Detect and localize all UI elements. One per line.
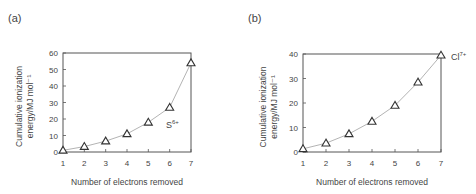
x-tick-label: 7 <box>439 159 444 168</box>
y-tick-label: 40 <box>49 82 58 91</box>
y-tick-label: 10 <box>289 124 298 133</box>
x-tick-label: 5 <box>393 159 398 168</box>
x-tick-label: 5 <box>146 159 151 168</box>
y-tick-label: 40 <box>289 50 298 59</box>
x-tick-label: 1 <box>61 159 66 168</box>
x-tick-label: 4 <box>370 159 375 168</box>
triangle-marker <box>437 51 445 58</box>
y-tick-label: 60 <box>49 49 58 58</box>
plot-frame <box>303 54 441 152</box>
triangle-marker <box>345 130 353 137</box>
svg-text:energy/MJ mol⁻¹: energy/MJ mol⁻¹ <box>25 75 35 139</box>
svg-text:energy/MJ mol⁻¹: energy/MJ mol⁻¹ <box>269 75 279 139</box>
x-tick-label: 3 <box>103 159 108 168</box>
y-tick-label: 20 <box>49 115 58 124</box>
triangle-marker <box>368 117 376 124</box>
x-tick-label: 2 <box>324 159 329 168</box>
svg-text:Cumulative ionization: Cumulative ionization <box>14 66 24 147</box>
x-tick-label: 7 <box>189 159 194 168</box>
triangle-marker <box>123 130 131 137</box>
y-tick-label: 50 <box>49 66 58 75</box>
x-tick-label: 6 <box>167 159 172 168</box>
x-tick-label: 4 <box>125 159 130 168</box>
y-tick-label: 0 <box>54 148 59 157</box>
ion-annotation: Cl7+ <box>451 51 467 62</box>
y-axis-title: Cumulative ionizationenergy/MJ mol⁻¹ <box>14 66 35 147</box>
x-axis-title: Number of electrons removed <box>71 177 183 187</box>
chart-a: 01020304050601234567Number of electrons … <box>0 0 238 194</box>
y-tick-label: 20 <box>289 99 298 108</box>
y-tick-label: 30 <box>49 99 58 108</box>
svg-text:Cumulative ionization: Cumulative ionization <box>258 66 268 147</box>
y-tick-label: 10 <box>49 132 58 141</box>
triangle-marker <box>187 59 195 66</box>
triangle-marker <box>166 103 174 110</box>
x-tick-label: 6 <box>416 159 421 168</box>
y-axis-title: Cumulative ionizationenergy/MJ mol⁻¹ <box>258 66 279 147</box>
ion-annotation: S6+ <box>166 119 179 130</box>
y-tick-label: 0 <box>294 148 299 157</box>
chart-b: 0102030401234567Number of electrons remo… <box>238 0 476 194</box>
chart-panel-b: (b) 0102030401234567Number of electrons … <box>238 0 476 194</box>
x-tick-label: 1 <box>301 159 306 168</box>
triangle-marker <box>144 118 152 125</box>
series-line <box>303 55 441 149</box>
triangle-marker <box>322 139 330 146</box>
x-tick-label: 3 <box>347 159 352 168</box>
x-axis-title: Number of electrons removed <box>316 177 428 187</box>
chart-panel-a: (a) 01020304050601234567Number of electr… <box>0 0 238 194</box>
x-tick-label: 2 <box>82 159 87 168</box>
y-tick-label: 30 <box>289 75 298 84</box>
